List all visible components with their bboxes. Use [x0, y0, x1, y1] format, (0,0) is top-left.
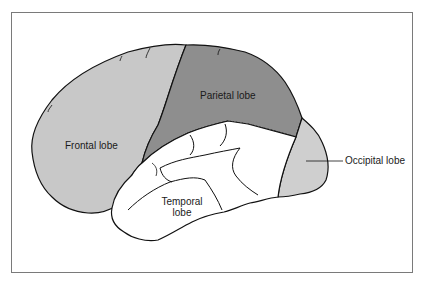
temporal-lobe-label-line1: Temporal: [157, 196, 207, 207]
parietal-lobe-label: Parietal lobe: [200, 90, 256, 101]
temporal-lobe-label: Temporal lobe: [157, 196, 207, 218]
temporal-lobe-label-line2: lobe: [157, 207, 207, 218]
brain-diagram: [0, 0, 425, 283]
frontal-lobe-label: Frontal lobe: [65, 140, 118, 151]
occipital-lobe-label: Occipital lobe: [345, 155, 405, 166]
